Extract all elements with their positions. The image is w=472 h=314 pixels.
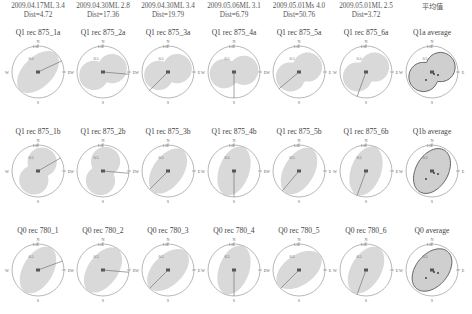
west-label: W	[333, 70, 337, 75]
west-label: W	[333, 268, 337, 273]
east-label: E	[462, 169, 465, 174]
west-label: W	[399, 70, 403, 75]
south-label: S	[233, 199, 236, 204]
ring-05-label: 0.5	[158, 254, 163, 259]
rose-plot: NSEW1.00.5	[70, 237, 136, 303]
center-marker	[430, 269, 434, 272]
ring-05-label: 0.5	[422, 56, 427, 61]
ring-1-label: 1.0	[293, 242, 298, 247]
south-label: S	[365, 100, 368, 105]
west-label: W	[201, 169, 205, 174]
sample-point	[433, 172, 435, 174]
ring-1-label: 1.0	[293, 44, 298, 49]
ring-05-label: 0.5	[158, 155, 163, 160]
rose-plot: NSEW1.00.5	[399, 39, 465, 105]
ring-1-label: 1.0	[97, 143, 102, 148]
east-label: E	[329, 70, 332, 75]
ring-05-label: 0.5	[28, 254, 33, 259]
rose-plot: NSEW1.00.5	[70, 39, 136, 105]
ring-1-label: 1.0	[426, 143, 431, 148]
ring-05-label: 0.5	[28, 155, 33, 160]
south-label: S	[365, 199, 368, 204]
sample-point	[437, 74, 439, 76]
rose-plot: NSEW1.00.5	[70, 138, 136, 204]
ring-05-label: 0.5	[224, 155, 229, 160]
west-label: W	[399, 169, 403, 174]
center-marker	[430, 170, 434, 173]
sample-point	[437, 173, 439, 175]
south-label: S	[298, 298, 301, 303]
west-label: W	[399, 268, 403, 273]
rose-plot: NSEW1.00.5	[333, 237, 399, 303]
ring-1-label: 1.0	[228, 143, 233, 148]
ring-1-label: 1.0	[97, 242, 102, 247]
south-label: S	[37, 100, 40, 105]
east-label: E	[329, 169, 332, 174]
rose-plot: NSEW1.00.5	[201, 138, 267, 204]
ring-1-label: 1.0	[228, 242, 233, 247]
ring-05-label: 0.5	[93, 155, 98, 160]
west-label: W	[266, 268, 270, 273]
rose-plot: NSEW1.00.5	[201, 237, 267, 303]
west-label: W	[135, 169, 139, 174]
east-label: E	[462, 268, 465, 273]
rose-plot: NSEW1.00.5	[333, 138, 399, 204]
south-label: S	[37, 298, 40, 303]
rose-plot: NSEW1.00.5	[266, 138, 332, 204]
west-label: W	[70, 169, 74, 174]
west-label: W	[266, 169, 270, 174]
ring-1-label: 1.0	[162, 242, 167, 247]
south-label: S	[233, 298, 236, 303]
south-label: S	[37, 199, 40, 204]
ring-05-label: 0.5	[93, 56, 98, 61]
west-label: W	[266, 70, 270, 75]
ring-05-label: 0.5	[289, 155, 294, 160]
rose-plot: NSEW1.00.5	[135, 237, 201, 303]
ring-1-label: 1.0	[32, 44, 37, 49]
south-label: S	[431, 199, 434, 204]
ring-1-label: 1.0	[426, 242, 431, 247]
rose-plot: NSEW1.00.5	[5, 237, 71, 303]
ring-1-label: 1.0	[426, 44, 431, 49]
ring-05-label: 0.5	[28, 56, 33, 61]
south-label: S	[298, 199, 301, 204]
rose-plot: NSEW1.00.5	[266, 237, 332, 303]
west-label: W	[5, 70, 9, 75]
west-label: W	[5, 169, 9, 174]
west-label: W	[201, 268, 205, 273]
center-marker	[430, 71, 434, 74]
west-label: W	[5, 268, 9, 273]
ring-05-label: 0.5	[422, 254, 427, 259]
ring-05-label: 0.5	[356, 56, 361, 61]
ring-1-label: 1.0	[360, 242, 365, 247]
west-label: W	[135, 268, 139, 273]
south-label: S	[102, 100, 105, 105]
rose-diagram-grid: NSEW1.00.5NSEW1.00.5NSEW1.00.5NSEW1.00.5…	[0, 0, 472, 314]
west-label: W	[70, 70, 74, 75]
sample-point	[425, 277, 427, 279]
sample-point	[433, 271, 435, 273]
ring-1-label: 1.0	[162, 143, 167, 148]
south-label: S	[365, 298, 368, 303]
ring-1-label: 1.0	[32, 143, 37, 148]
rose-plot: NSEW1.00.5	[201, 39, 267, 105]
ring-05-label: 0.5	[422, 155, 427, 160]
rose-plot: NSEW1.00.5	[333, 39, 399, 105]
east-label: E	[329, 268, 332, 273]
south-label: S	[102, 199, 105, 204]
ring-05-label: 0.5	[224, 56, 229, 61]
south-label: S	[431, 298, 434, 303]
rose-plot: NSEW1.00.5	[266, 39, 332, 105]
rose-plot: NSEW1.00.5	[399, 237, 465, 303]
rose-plot: NSEW1.00.5	[135, 39, 201, 105]
south-label: S	[431, 100, 434, 105]
ring-05-label: 0.5	[289, 254, 294, 259]
ring-1-label: 1.0	[293, 143, 298, 148]
south-label: S	[167, 298, 170, 303]
south-label: S	[102, 298, 105, 303]
rose-plot: NSEW1.00.5	[135, 138, 201, 204]
sample-point	[425, 178, 427, 180]
west-label: W	[333, 169, 337, 174]
ring-1-label: 1.0	[32, 242, 37, 247]
west-label: W	[201, 70, 205, 75]
